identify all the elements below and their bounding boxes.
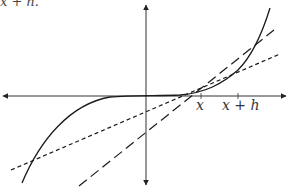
function-diagram: x x + h bbox=[0, 0, 289, 189]
label-x: x bbox=[196, 97, 204, 113]
label-x-plus-h: x + h bbox=[222, 97, 260, 113]
